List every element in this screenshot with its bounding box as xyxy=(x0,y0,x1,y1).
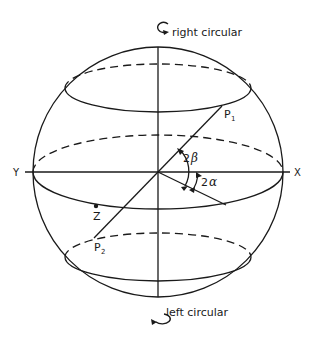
svg-text:2: 2 xyxy=(101,248,105,256)
label-p1: P 1 xyxy=(224,108,235,123)
angle-2beta-arrowhead-bottom xyxy=(181,186,188,191)
label-p2: P 2 xyxy=(94,241,105,256)
label-right-circular: right circular xyxy=(172,26,243,39)
clockwise-rotation-icon xyxy=(158,22,169,35)
label-2beta: 2 β xyxy=(183,151,198,165)
svg-text:P: P xyxy=(224,108,231,121)
svg-text:2: 2 xyxy=(183,152,190,165)
svg-text:α: α xyxy=(209,175,217,189)
point-z-marker xyxy=(94,204,98,208)
svg-text:1: 1 xyxy=(231,115,235,123)
label-z: Z xyxy=(93,210,101,223)
label-axis-x: X xyxy=(294,167,301,178)
label-2alpha: 2 α xyxy=(201,175,217,189)
svg-text:β: β xyxy=(190,151,198,165)
poincare-sphere-diagram: right circular left circular Y X P 1 P 2… xyxy=(0,0,314,342)
label-left-circular: left circular xyxy=(166,306,229,319)
label-axis-y: Y xyxy=(12,167,20,178)
svg-text:P: P xyxy=(94,241,101,254)
svg-text:2: 2 xyxy=(201,176,208,189)
